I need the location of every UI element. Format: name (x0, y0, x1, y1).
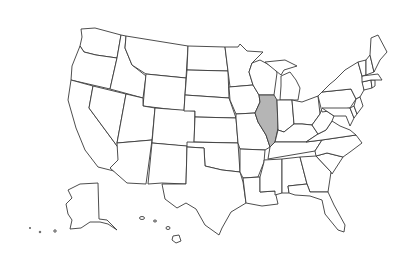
us-map-svg (0, 0, 410, 262)
hawaii-island (154, 220, 157, 222)
state-hawaii[interactable] (172, 235, 181, 243)
aleutian-island (29, 227, 30, 228)
state-mississippi[interactable] (260, 159, 282, 195)
state-north-dakota[interactable] (187, 46, 228, 71)
us-map (0, 0, 410, 262)
aleutian-island (54, 230, 56, 232)
hawaii-island (166, 227, 170, 230)
state-maine[interactable] (370, 35, 387, 72)
state-alaska[interactable] (66, 183, 117, 230)
state-south-dakota[interactable] (185, 70, 229, 98)
state-new-mexico[interactable] (148, 143, 187, 184)
hawaii-island (140, 217, 145, 220)
state-colorado[interactable] (152, 108, 195, 147)
state-kansas[interactable] (194, 117, 238, 143)
state-wyoming[interactable] (143, 74, 186, 111)
aleutian-island (39, 231, 41, 233)
state-rhode-island[interactable] (371, 80, 375, 88)
